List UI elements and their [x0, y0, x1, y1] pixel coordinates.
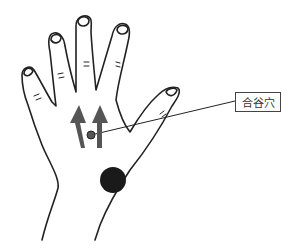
nail-thumb — [166, 88, 177, 95]
callout-line — [91, 101, 235, 135]
hand-diagram: 合谷穴 — [0, 0, 300, 252]
nail-index — [117, 25, 128, 34]
nail-middle — [78, 17, 89, 26]
large-dot — [100, 167, 126, 193]
arrow-up-icon — [70, 105, 86, 148]
nail-ring — [51, 35, 61, 43]
arrow-up-icon — [92, 105, 108, 148]
acupoint-dot — [87, 131, 95, 139]
nail-pinky — [24, 68, 33, 76]
hand-illustration — [0, 0, 300, 252]
callout-label: 合谷穴 — [235, 92, 281, 112]
